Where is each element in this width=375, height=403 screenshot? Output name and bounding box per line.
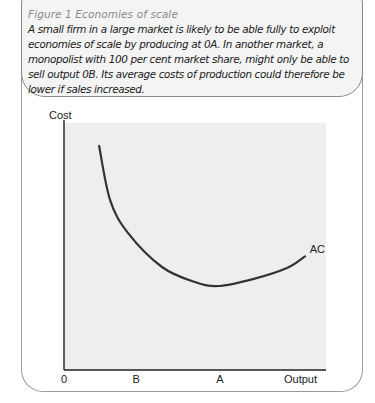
cost-chart: Cost Output 0 BA AC — [0, 0, 375, 403]
x-tick-labels: BA — [132, 373, 224, 385]
x-axis-label: Output — [284, 373, 317, 385]
x-tick-label-A: A — [216, 373, 224, 385]
plot-background — [64, 123, 326, 370]
series-label-ac: AC — [310, 243, 325, 255]
y-axis-label: Cost — [49, 109, 72, 121]
x-tick-label-B: B — [132, 373, 139, 385]
origin-label: 0 — [61, 373, 67, 385]
